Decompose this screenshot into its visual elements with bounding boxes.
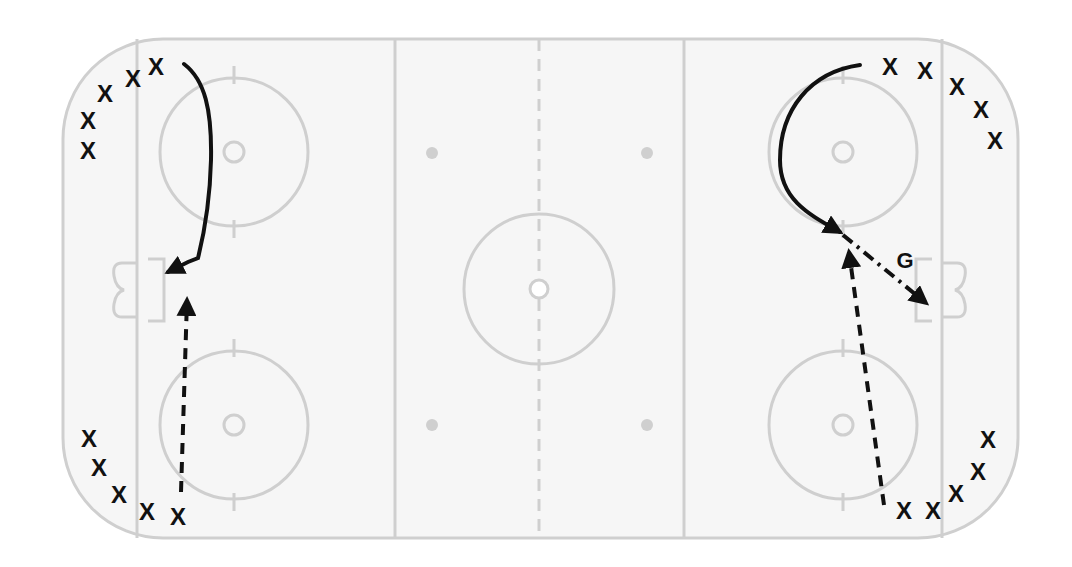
player-marker: X (139, 498, 155, 525)
neutral-dot (426, 147, 438, 159)
player-marker: X (949, 73, 965, 100)
player-marker: X (170, 503, 186, 530)
player-marker: X (987, 127, 1003, 154)
player-marker: X (97, 80, 113, 107)
goalie-label: G (896, 248, 913, 273)
player-marker: X (80, 107, 96, 134)
neutral-dot (426, 419, 438, 431)
player-marker: X (917, 57, 933, 84)
player-marker: X (973, 96, 989, 123)
rink-diagram: X X X X X X X X X X X X X X X X X X X X … (0, 0, 1072, 567)
player-marker: X (925, 497, 941, 524)
player-marker: X (948, 480, 964, 507)
player-marker: X (80, 137, 96, 164)
player-marker: X (970, 458, 986, 485)
player-marker: X (111, 481, 127, 508)
player-marker: X (91, 454, 107, 481)
center-faceoff-dot (530, 280, 548, 298)
neutral-dot (641, 419, 653, 431)
player-marker: X (882, 53, 898, 80)
player-marker: X (980, 426, 996, 453)
player-marker: X (148, 53, 164, 80)
player-marker: X (81, 425, 97, 452)
player-marker: X (896, 497, 912, 524)
player-marker: X (125, 65, 141, 92)
neutral-dot (641, 147, 653, 159)
